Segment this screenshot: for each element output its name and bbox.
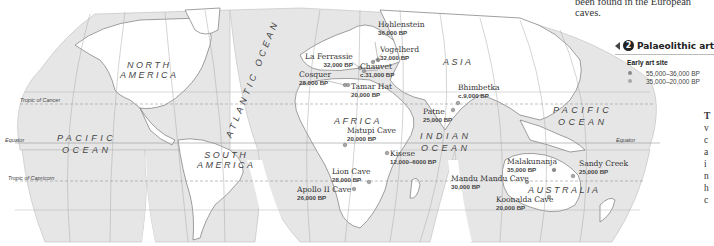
side-text-line: v [704, 122, 710, 134]
ocean-pacific-east: PACIFIC OCEAN [553, 104, 612, 128]
region-label-line: AMERICA [197, 160, 256, 170]
site-name: Koonalda Cave [496, 196, 553, 204]
site-patne: Patne 25,000 BP [423, 108, 452, 123]
equator-label: Equator [5, 137, 24, 143]
legend-subtitle: Early art site [627, 59, 714, 66]
site-name: Mandu Mandu Cave [451, 175, 529, 183]
legend-item: 55,000–36,000 BP [628, 69, 714, 77]
site-mandu-mandu-cave: Mandu Mandu Cave 30,000 BP [451, 175, 529, 190]
site-date: 30,000 BP [451, 183, 529, 190]
site-date: 26,000 BP [297, 194, 351, 201]
site-name: Kisese [390, 150, 436, 158]
site-hohlenstein: Hohlenstein 36,000 BP [378, 21, 425, 36]
legend-title-text: Palaeolithic art [637, 41, 714, 51]
site-date: 28,000 BP [299, 79, 331, 86]
site-name: Lion Cave [332, 168, 370, 176]
back-arrow-icon[interactable] [615, 42, 620, 50]
site-vogelherd: Vogelherd 32,000 BP [380, 46, 419, 61]
legend: 2 Palaeolithic art Early art site 55,000… [615, 40, 714, 85]
site-date: 12,000–6000 BP [390, 158, 436, 165]
site-name: Tamar Hat [351, 83, 392, 91]
map-lobe-pacific-south [22, 150, 147, 242]
site-lion-cave: Lion Cave 28,000 BP [332, 168, 370, 183]
site-name: Patne [423, 108, 452, 116]
side-text-line: c [704, 194, 710, 206]
site-apollo-ii-cave: Apollo II Cave 26,000 BP [297, 186, 351, 201]
site-koonalda-cave: Koonalda Cave 20,000 BP [496, 196, 553, 211]
site-date: 32,000 BP [305, 61, 353, 68]
intro-text: been found in the European caves. [575, 0, 714, 18]
site-date: 20,000 BP [496, 204, 553, 211]
site-sandy-creek: Sandy Creek 25,000 BP [579, 160, 628, 175]
site-name: Vogelherd [380, 46, 419, 54]
site-tamar-hat: Tamar Hat 20,000 BP [351, 83, 392, 98]
site-name: Chauvet [360, 63, 394, 71]
region-label-line: SOUTH [197, 150, 256, 160]
side-text-line: i [704, 158, 710, 170]
site-bhimbetka: Bhimbetka c.9,000 BP [458, 84, 500, 99]
tropic-of-cancer-label: Tropic of Cancer [20, 97, 60, 103]
ocean-label-line: PACIFIC [553, 104, 612, 116]
section-number-badge: 2 [623, 40, 634, 51]
site-name: Bhimbetka [458, 84, 500, 92]
site-name: Hohlenstein [378, 21, 425, 29]
site-malakunanja: Malakunanja 35,000 BP [507, 158, 557, 173]
site-name: Cosquer [299, 71, 331, 79]
region-north-america: NORTH AMERICA [120, 60, 179, 80]
site-name: Matupi Cave [347, 127, 396, 135]
region-africa: AFRICA [334, 116, 382, 126]
site-la-ferrassie: La Ferrassie 32,000 BP [305, 53, 353, 68]
region-label-line: NORTH [120, 60, 179, 70]
equator-label-right: Equator [616, 137, 635, 143]
ocean-pacific-west: PACIFIC OCEAN [57, 132, 116, 156]
site-kisese: Kisese 12,000–6000 BP [390, 150, 436, 165]
ocean-label-line: OCEAN [57, 144, 116, 156]
site-date: 36,000 BP [378, 29, 425, 36]
site-date: 28,000 BP [332, 176, 370, 183]
legend-item-label: 35,000–20,000 BP [646, 78, 700, 85]
site-cosquer: Cosquer 28,000 BP [299, 71, 331, 86]
site-date: 35,000 BP [507, 166, 557, 173]
region-south-america: SOUTH AMERICA [197, 150, 256, 170]
side-text-fragment: T v c a i n h c [704, 110, 710, 206]
site-date: 25,000 BP [423, 116, 452, 123]
legend-item-label: 55,000–36,000 BP [646, 70, 700, 77]
side-text-line: n [704, 170, 710, 182]
side-text-line: h [704, 182, 710, 194]
site-name: Malakunanja [507, 158, 557, 166]
ocean-label-line: OCEAN [553, 116, 612, 128]
side-text-line: T [704, 110, 710, 122]
legend-dot-icon [628, 71, 632, 75]
site-date: 25,000 BP [579, 168, 628, 175]
region-label-line: AMERICA [120, 70, 179, 80]
region-asia: ASIA [443, 57, 474, 67]
site-date: c.9,000 BP [458, 92, 500, 99]
site-date: 20,000 BP [347, 135, 396, 142]
region-australia: AUSTRALIA [528, 185, 601, 195]
side-text-line: a [704, 146, 710, 158]
site-chauvet: Chauvet c.31,000 BP [360, 63, 394, 78]
legend-item: 35,000–20,000 BP [628, 77, 714, 85]
site-name: Apollo II Cave [297, 186, 351, 194]
ocean-label-line: INDIAN [420, 130, 472, 142]
site-date: 32,000 BP [380, 54, 419, 61]
site-date: c.31,000 BP [360, 71, 394, 78]
site-name: La Ferrassie [305, 53, 353, 61]
site-name: Sandy Creek [579, 160, 628, 168]
legend-dot-icon [628, 79, 632, 83]
ocean-label-line: PACIFIC [57, 132, 116, 144]
site-date: 20,000 BP [351, 91, 392, 98]
site-matupi-cave: Matupi Cave 20,000 BP [347, 127, 396, 142]
side-text-line: c [704, 134, 710, 146]
legend-title: 2 Palaeolithic art [615, 40, 714, 55]
tropic-of-capricorn-label: Tropic of Capricorn [8, 175, 54, 181]
